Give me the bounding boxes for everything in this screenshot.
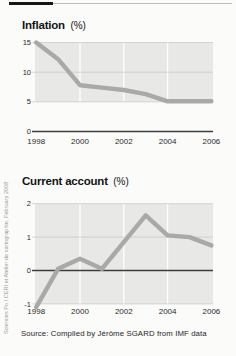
y-tick-label: 0 [27, 266, 31, 275]
y-tick-label: 1 [27, 233, 31, 242]
x-tick-label: 2004 [159, 307, 177, 316]
source-note: Source: Compiled by Jérôme SGARD from IM… [21, 329, 231, 338]
x-tick-label: 1998 [27, 307, 45, 316]
figure-root: Inflation (%) 15105019982000200220042006… [0, 0, 236, 356]
current-account-chart: 210-119982000200220042006 [0, 0, 236, 356]
x-tick-label: 2000 [71, 307, 89, 316]
x-tick-label: 2006 [203, 307, 221, 316]
x-tick-label: 2002 [115, 307, 133, 316]
credit-vertical-text: Sciences Po / CERI et Atelier de cartogr… [3, 190, 9, 334]
y-tick-label: 2 [27, 199, 31, 208]
